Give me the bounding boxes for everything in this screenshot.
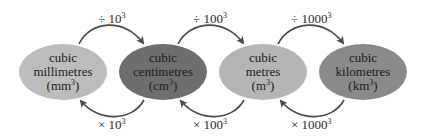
divide-exp: 3 bbox=[223, 11, 227, 20]
multiply-label-1: × 103 bbox=[98, 118, 126, 132]
node-line1: cubic bbox=[249, 51, 277, 65]
node-cubic-metres: cubic metres (m3) bbox=[219, 44, 307, 100]
multiply-op: × bbox=[98, 117, 109, 132]
divide-exp: 3 bbox=[327, 11, 331, 20]
divide-op: ÷ bbox=[291, 11, 301, 26]
unit-close: ) bbox=[373, 78, 377, 93]
node-cubic-millimetres: cubic millimetres (mm3) bbox=[19, 44, 107, 100]
node-line2: kilometres bbox=[336, 65, 391, 79]
node-unit: (m3) bbox=[252, 79, 275, 93]
divide-op: ÷ bbox=[98, 11, 108, 26]
unit-close: ) bbox=[270, 78, 274, 93]
multiply-op: × bbox=[291, 117, 302, 132]
divide-arrow-2 bbox=[178, 25, 243, 44]
multiply-arrow-3 bbox=[281, 100, 344, 117]
node-line1: cubic bbox=[149, 51, 177, 65]
multiply-exp: 3 bbox=[328, 117, 332, 126]
multiply-op: × bbox=[193, 117, 204, 132]
multiply-label-2: × 1003 bbox=[193, 118, 227, 132]
multiply-arrow-1 bbox=[81, 100, 144, 117]
node-line2: millimetres bbox=[33, 65, 92, 79]
unit-base: (cm bbox=[149, 78, 169, 93]
divide-label-3: ÷ 10003 bbox=[291, 12, 331, 26]
multiply-base: 100 bbox=[204, 117, 224, 132]
node-cubic-kilometres: cubic kilometres (km3) bbox=[319, 44, 407, 100]
node-line1: cubic bbox=[349, 51, 377, 65]
unit-base: (mm bbox=[47, 78, 72, 93]
unit-close: ) bbox=[173, 78, 177, 93]
divide-op: ÷ bbox=[193, 11, 203, 26]
multiply-exp: 3 bbox=[122, 117, 126, 126]
node-line2: metres bbox=[246, 65, 281, 79]
divide-exp: 3 bbox=[121, 11, 125, 20]
divide-base: 1000 bbox=[301, 11, 327, 26]
multiply-exp: 3 bbox=[223, 117, 227, 126]
divide-base: 10 bbox=[108, 11, 121, 26]
multiply-arrow-2 bbox=[181, 100, 244, 117]
node-unit: (km3) bbox=[348, 79, 377, 93]
multiply-base: 10 bbox=[109, 117, 122, 132]
node-line2: centimetres bbox=[133, 65, 193, 79]
unit-base: (km bbox=[348, 78, 369, 93]
node-unit: (cm3) bbox=[149, 79, 178, 93]
unit-base: (m bbox=[252, 78, 266, 93]
divide-arrow-1 bbox=[79, 25, 143, 44]
multiply-label-3: × 10003 bbox=[291, 118, 332, 132]
unit-close: ) bbox=[75, 78, 79, 93]
multiply-base: 1000 bbox=[302, 117, 328, 132]
divide-label-2: ÷ 1003 bbox=[193, 12, 227, 26]
node-cubic-centimetres: cubic centimetres (cm3) bbox=[119, 44, 207, 100]
divide-base: 100 bbox=[203, 11, 223, 26]
node-line1: cubic bbox=[49, 51, 77, 65]
divide-label-1: ÷ 103 bbox=[98, 12, 125, 26]
node-unit: (mm3) bbox=[47, 79, 80, 93]
divide-arrow-3 bbox=[278, 25, 343, 44]
